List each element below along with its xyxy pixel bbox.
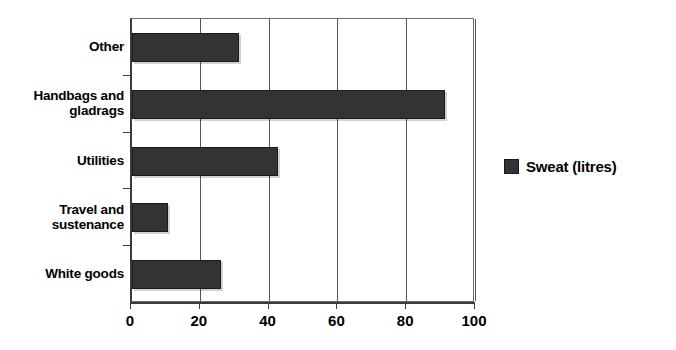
x-axis-tick-label-80: 80 — [375, 312, 435, 329]
x-axis-tick-40 — [268, 302, 269, 309]
bar-utilities — [132, 147, 278, 176]
category-label-line: gladrags — [0, 103, 124, 118]
category-label-white-goods: White goods — [0, 266, 124, 281]
y-axis-tick — [123, 188, 130, 189]
legend-label-sweat: Sweat (litres) — [526, 158, 617, 175]
gridline-60 — [337, 19, 338, 301]
x-axis-line — [130, 302, 475, 304]
gridline-80 — [406, 19, 407, 301]
x-axis-tick-label-100: 100 — [444, 312, 504, 329]
x-axis-tick-80 — [405, 302, 406, 309]
bar-white-goods — [132, 260, 221, 289]
legend-swatch-sweat — [504, 159, 519, 174]
category-label-line: Travel and — [0, 202, 124, 217]
x-axis-tick-100 — [474, 302, 475, 309]
category-label-handbags-and-gladrags: Handbags andgladrags — [0, 88, 124, 118]
x-axis-tick-label-0: 0 — [100, 312, 160, 329]
bar-chart: OtherHandbags andgladragsUtilitiesTravel… — [0, 0, 676, 350]
x-axis-tick-label-40: 40 — [238, 312, 298, 329]
y-axis-tick — [123, 75, 130, 76]
category-label-line: Other — [0, 39, 124, 54]
gridline-100 — [475, 19, 476, 301]
category-axis-labels: OtherHandbags andgladragsUtilitiesTravel… — [0, 18, 124, 302]
category-label-other: Other — [0, 39, 124, 54]
legend: Sweat (litres) — [504, 158, 617, 175]
category-label-line: White goods — [0, 266, 124, 281]
x-axis-tick-60 — [336, 302, 337, 309]
plot-area — [130, 18, 474, 302]
bar-other — [132, 33, 239, 62]
bar-handbags-and-gladrags — [132, 90, 445, 119]
y-axis-tick — [123, 245, 130, 246]
x-axis-tick-20 — [199, 302, 200, 309]
y-axis-tick — [123, 132, 130, 133]
category-label-travel-and-sustenance: Travel andsustenance — [0, 202, 124, 232]
category-label-line: sustenance — [0, 217, 124, 232]
category-label-line: Handbags and — [0, 88, 124, 103]
x-axis-tick-label-20: 20 — [169, 312, 229, 329]
bar-travel-and-sustenance — [132, 203, 168, 232]
category-label-utilities: Utilities — [0, 153, 124, 168]
x-axis-tick-0 — [130, 302, 131, 309]
category-label-line: Utilities — [0, 153, 124, 168]
x-axis-tick-label-60: 60 — [306, 312, 366, 329]
